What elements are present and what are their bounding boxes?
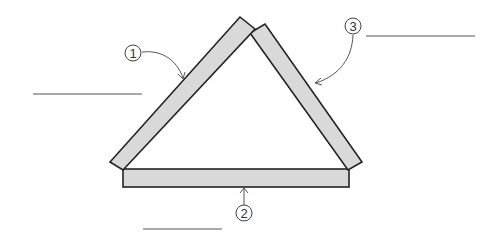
callout-label-3: 3 bbox=[349, 19, 356, 34]
leader-arrow-3 bbox=[316, 35, 353, 83]
callout-1: 1 bbox=[125, 45, 185, 79]
callout-3: 3 bbox=[315, 18, 361, 85]
triangle-bars-diagram: 1 3 2 bbox=[0, 0, 501, 245]
bar-2-bottom bbox=[123, 169, 349, 187]
leader-arrow-1 bbox=[142, 52, 183, 78]
callout-2: 2 bbox=[236, 188, 252, 221]
callout-label-2: 2 bbox=[240, 206, 247, 221]
bar-3-right bbox=[250, 24, 362, 170]
callout-label-1: 1 bbox=[129, 46, 136, 61]
